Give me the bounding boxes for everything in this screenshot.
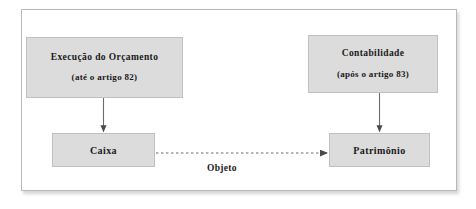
node-contabilidade-title: Contabilidade xyxy=(342,48,405,58)
node-patrimonio: Patrimônio xyxy=(329,133,430,167)
node-execucao-do-orcamento: Execução do Orçamento (até o artigo 82) xyxy=(26,37,183,98)
node-contabilidade-subtitle: (após o artigo 83) xyxy=(337,70,409,80)
node-execucao-title: Execução do Orçamento xyxy=(51,52,159,62)
node-caixa-title: Caixa xyxy=(90,145,117,156)
node-caixa: Caixa xyxy=(52,133,155,167)
edge-label-objeto: Objeto xyxy=(207,163,237,173)
node-patrimonio-title: Patrimônio xyxy=(353,145,405,156)
node-execucao-subtitle: (até o artigo 82) xyxy=(72,73,138,83)
diagram-root: Execução do Orçamento (até o artigo 82) … xyxy=(0,0,476,209)
node-contabilidade: Contabilidade (após o artigo 83) xyxy=(308,35,438,93)
